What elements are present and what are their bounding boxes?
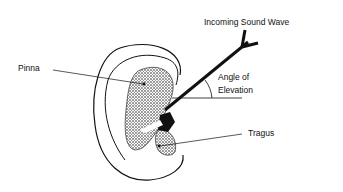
ear-diagram: Incoming Sound Wave Pinna Angle of Eleva… xyxy=(0,0,343,192)
incoming-sound-wave-label: Incoming Sound Wave xyxy=(204,18,289,28)
tragus-region xyxy=(155,130,175,155)
angle-label-line2: Elevation xyxy=(218,86,253,96)
ear-illustration xyxy=(0,0,343,192)
pinna-label: Pinna xyxy=(18,64,40,74)
tragus-label: Tragus xyxy=(248,129,274,139)
angle-label-line1: Angle of xyxy=(218,73,249,83)
